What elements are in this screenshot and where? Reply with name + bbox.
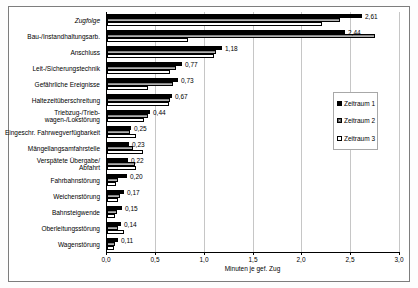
category-label: Eingeschr. Fahrwegverfügbarkeit <box>8 124 103 140</box>
x-tick-label: 3,0 <box>387 256 411 264</box>
x-tick-label: 0,0 <box>94 256 118 264</box>
gridline <box>399 12 400 252</box>
bar-zeitraum-3 <box>107 102 169 106</box>
value-label: 1,18 <box>225 45 238 52</box>
value-label: 0,23 <box>132 141 145 148</box>
x-axis-title: Minuten je gef. Zug <box>106 265 399 273</box>
category-label: Bahnsteigwende <box>8 204 103 220</box>
category-label: Fahrbahnstörung <box>8 172 103 188</box>
legend-label-zeitraum-1: Zeitraum 1 <box>344 100 375 107</box>
value-label: 0,14 <box>124 221 137 228</box>
value-label: 0,22 <box>131 157 144 164</box>
value-label: 0,44 <box>153 109 166 116</box>
bar-zeitraum-3 <box>107 118 144 122</box>
bar-zeitraum-3 <box>107 22 322 26</box>
category-label: Verspätete Übergabe/Abfahrt <box>8 156 103 172</box>
value-label: 0,73 <box>181 77 194 84</box>
category-label: Anschluss <box>8 44 103 60</box>
category-label: Gefährliche Ereignisse <box>8 76 103 92</box>
legend-label-zeitraum-2: Zeitraum 2 <box>344 117 375 124</box>
legend-marker-hatched-square-icon <box>337 118 342 123</box>
x-tick-label: 1,5 <box>241 256 265 264</box>
bar-zeitraum-3 <box>107 86 148 90</box>
legend-marker-black-square-icon <box>337 101 342 106</box>
value-label: 0,17 <box>127 189 140 196</box>
x-tick-mark <box>204 252 205 255</box>
legend-item-zeitraum-1: Zeitraum 1 <box>337 100 377 107</box>
value-label: 0,67 <box>175 93 188 100</box>
category-label: Wagenstörung <box>8 236 103 252</box>
gridline <box>301 12 302 252</box>
x-tick-mark <box>106 252 107 255</box>
legend: Zeitraum 1 Zeitraum 2 Zeitraum 3 <box>333 92 378 150</box>
value-label: 0,15 <box>125 205 138 212</box>
bar-zeitraum-3 <box>107 54 214 58</box>
x-tick-mark <box>399 252 400 255</box>
x-tick-label: 2,0 <box>289 256 313 264</box>
category-label: Triebzug-/Trieb-wagen-/Lokstörung <box>8 108 103 124</box>
bar-zeitraum-3 <box>107 38 188 42</box>
legend-item-zeitraum-3: Zeitraum 3 <box>337 135 377 142</box>
value-label: 0,77 <box>185 61 198 68</box>
x-tick-label: 2,5 <box>338 256 362 264</box>
bar-zeitraum-3 <box>107 230 124 234</box>
value-label: 2,61 <box>365 13 378 20</box>
category-label: Bau-/Instandhaltungsarb. <box>8 28 103 44</box>
category-label: Zugfolge <box>8 12 103 28</box>
gridline <box>253 12 254 252</box>
value-label: 0,20 <box>130 173 143 180</box>
x-tick-mark <box>155 252 156 255</box>
bar-zeitraum-3 <box>107 246 114 250</box>
bar-zeitraum-3 <box>107 70 170 74</box>
category-label: Oberleitungsstörung <box>8 220 103 236</box>
value-label: 2,44 <box>348 29 361 36</box>
bar-zeitraum-3 <box>107 198 118 202</box>
category-label: Leit-/Sicherungstechnik <box>8 60 103 76</box>
bar-zeitraum-3 <box>107 166 136 170</box>
legend-marker-white-square-icon <box>337 136 342 141</box>
category-label: Weichenstörung <box>8 188 103 204</box>
category-label: Mängellangsamfahrstelle <box>8 140 103 156</box>
category-label: Haltezeitüberschreitung <box>8 92 103 108</box>
bar-zeitraum-3 <box>107 214 115 218</box>
legend-label-zeitraum-3: Zeitraum 3 <box>344 135 375 142</box>
bar-zeitraum-3 <box>107 150 143 154</box>
legend-item-zeitraum-2: Zeitraum 2 <box>337 117 377 124</box>
value-label: 0,11 <box>121 237 133 244</box>
x-tick-label: 0,5 <box>143 256 167 264</box>
x-tick-mark <box>301 252 302 255</box>
bar-chart: ZugfolgeBau-/Instandhaltungsarb.Anschlus… <box>0 0 418 288</box>
x-tick-label: 1,0 <box>192 256 216 264</box>
bar-zeitraum-3 <box>107 182 116 186</box>
bar-zeitraum-3 <box>107 134 136 138</box>
x-tick-mark <box>350 252 351 255</box>
x-tick-mark <box>253 252 254 255</box>
value-label: 0,25 <box>134 125 147 132</box>
